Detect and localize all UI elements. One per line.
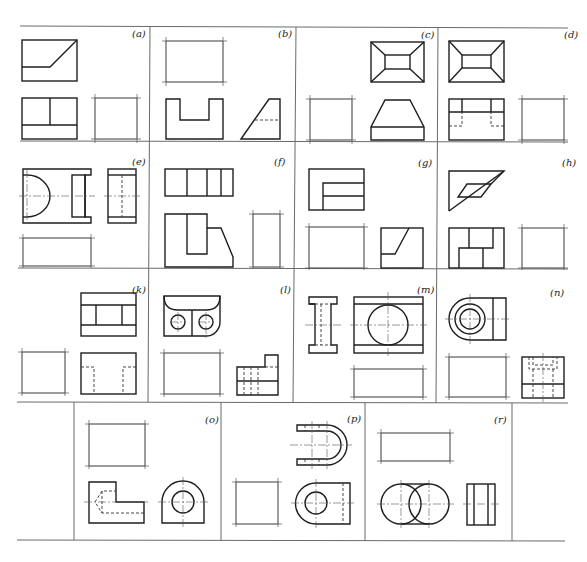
panel-h: (h) — [449, 157, 576, 270]
panel-b: (b) — [162, 28, 292, 139]
panel-p: (p) — [232, 413, 361, 528]
side-view — [81, 353, 136, 394]
panel-f: (f) — [165, 156, 286, 269]
side-view — [381, 228, 423, 268]
panel-label-r: (r) — [494, 414, 507, 425]
blank-view-frame — [162, 37, 227, 86]
blank-view-frame — [350, 365, 427, 400]
blank-view-frame — [19, 234, 95, 268]
front-view — [165, 214, 233, 267]
side-view — [463, 484, 499, 525]
blank-view-frame — [160, 349, 224, 397]
top-view — [165, 169, 233, 196]
blank-view-frame — [306, 95, 356, 144]
front-view — [22, 98, 77, 139]
panel-label-o: (o) — [205, 414, 219, 425]
top-view — [290, 421, 352, 469]
front-view — [19, 169, 95, 223]
blank-view-frame — [18, 348, 69, 396]
panel-label-f: (f) — [274, 156, 286, 167]
side-view — [305, 297, 341, 353]
panel-label-p: (p) — [347, 413, 361, 424]
top-view — [309, 169, 364, 210]
side-view — [291, 479, 354, 528]
projection-exercise-sheet: (a) (b) — [0, 0, 587, 562]
panel-label-d: (d) — [564, 29, 578, 40]
side-view — [104, 169, 140, 223]
front-view — [449, 99, 504, 140]
blank-view-frame — [91, 94, 141, 143]
top-view — [449, 171, 504, 211]
panel-label-c: (c) — [421, 29, 435, 40]
panel-a: (a) — [22, 28, 146, 143]
panel-c: (c) — [306, 29, 435, 144]
front-view — [84, 482, 149, 523]
panel-n: (n) — [445, 287, 564, 402]
front-view — [445, 294, 510, 344]
panel-label-h: (h) — [562, 157, 576, 168]
front-view — [350, 292, 427, 357]
panel-label-e: (e) — [132, 156, 146, 167]
top-view — [81, 293, 136, 336]
panel-label-g: (g) — [418, 157, 432, 168]
blank-view-frame — [249, 210, 284, 269]
blank-view-frame — [305, 223, 368, 270]
panel-l: (l) — [160, 284, 291, 397]
panel-g: (g) — [305, 157, 432, 270]
blank-view-frame — [518, 95, 568, 144]
top-view — [371, 42, 424, 82]
blank-view-frame — [232, 478, 282, 527]
top-view — [164, 296, 220, 340]
blank-view-frame — [85, 420, 149, 469]
panel-e: (e) — [19, 156, 146, 268]
top-view — [449, 41, 504, 82]
side-view — [158, 477, 208, 527]
front-view — [377, 480, 454, 528]
blank-view-frame — [518, 224, 568, 270]
top-view — [22, 40, 77, 81]
panel-k: (k) — [18, 284, 146, 396]
panel-d: (d) — [449, 29, 578, 144]
blank-view-frame — [377, 429, 454, 464]
front-view — [371, 100, 424, 140]
panel-m: (m) — [305, 284, 434, 400]
side-view — [522, 353, 564, 402]
panel-r: (r) — [377, 414, 507, 528]
panel-label-m: (m) — [417, 284, 434, 295]
panel-label-a: (a) — [132, 28, 146, 39]
side-view — [237, 355, 278, 395]
panel-label-b: (b) — [278, 28, 292, 39]
panel-label-n: (n) — [550, 287, 564, 298]
panel-label-l: (l) — [280, 284, 291, 295]
front-view — [166, 99, 223, 139]
grid-frame — [17, 26, 568, 541]
front-view — [449, 228, 504, 268]
blank-view-frame — [445, 353, 510, 400]
drawing-canvas: (a) (b) — [0, 0, 587, 562]
panel-o: (o) — [84, 414, 219, 527]
side-view — [241, 99, 280, 139]
